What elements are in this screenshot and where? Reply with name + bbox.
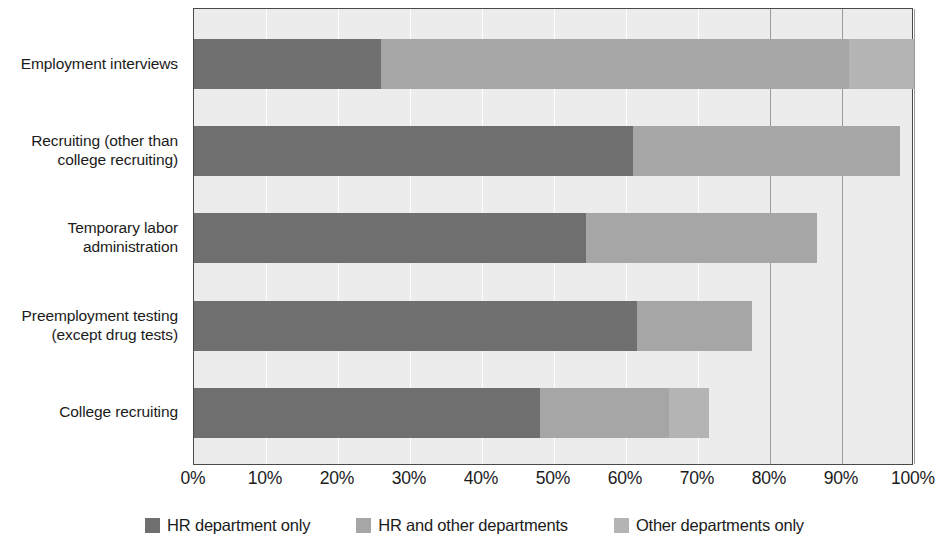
bar-segment	[849, 39, 914, 89]
legend-item[interactable]: HR and other departments	[356, 516, 568, 535]
legend-item[interactable]: HR department only	[145, 516, 310, 535]
category-label-line: College recruiting	[0, 402, 178, 421]
bar-segment	[669, 388, 709, 438]
bar-segment	[381, 39, 849, 89]
bar-row	[194, 388, 912, 438]
axis-tick-label: 100%	[891, 468, 935, 489]
bar-segment	[194, 301, 637, 351]
axis-tick-label: 0%	[181, 468, 206, 489]
category-label: Temporary laboradministration	[0, 218, 178, 256]
axis-tick-label: 50%	[536, 468, 570, 489]
bar-row	[194, 126, 912, 176]
legend-label: HR and other departments	[378, 516, 568, 535]
bar-segment	[194, 39, 381, 89]
plot-area	[193, 8, 913, 465]
category-label-line: administration	[0, 237, 178, 256]
bar-segment	[586, 213, 816, 263]
category-axis: Employment interviewsRecruiting (other t…	[0, 8, 186, 465]
gridline-100	[914, 9, 915, 464]
chart-legend: HR department onlyHR and other departmen…	[0, 508, 949, 542]
axis-tick-label: 20%	[320, 468, 354, 489]
bar-row	[194, 301, 912, 351]
category-label: College recruiting	[0, 402, 178, 421]
bar-segment	[637, 301, 752, 351]
category-label: Employment interviews	[0, 54, 178, 73]
legend-swatch-icon	[614, 518, 629, 533]
axis-tick-label: 70%	[680, 468, 714, 489]
category-label-line: college recruiting)	[0, 150, 178, 169]
legend-label: Other departments only	[636, 516, 804, 535]
category-label-line: (except drug tests)	[0, 325, 178, 344]
bar-row	[194, 39, 912, 89]
axis-tick-label: 30%	[392, 468, 426, 489]
value-axis: 0%10%20%30%40%50%60%70%80%90%100%	[193, 468, 913, 496]
stacked-bar-chart: Employment interviewsRecruiting (other t…	[0, 0, 949, 551]
category-label: Recruiting (other thancollege recruiting…	[0, 131, 178, 169]
axis-tick-label: 60%	[608, 468, 642, 489]
axis-tick-label: 80%	[752, 468, 786, 489]
category-label-line: Employment interviews	[0, 54, 178, 73]
legend-item[interactable]: Other departments only	[614, 516, 804, 535]
bar-segment	[194, 388, 540, 438]
bar-segment	[194, 213, 586, 263]
legend-swatch-icon	[356, 518, 371, 533]
axis-tick-label: 90%	[824, 468, 858, 489]
category-label-line: Temporary labor	[0, 218, 178, 237]
bar-segment	[540, 388, 670, 438]
bar-row	[194, 213, 912, 263]
bars-layer	[194, 9, 912, 464]
legend-label: HR department only	[167, 516, 310, 535]
legend-swatch-icon	[145, 518, 160, 533]
axis-tick-label: 10%	[248, 468, 282, 489]
category-label: Preemployment testing(except drug tests)	[0, 306, 178, 344]
axis-tick-label: 40%	[464, 468, 498, 489]
bar-segment	[194, 126, 633, 176]
bar-segment	[633, 126, 899, 176]
category-label-line: Recruiting (other than	[0, 131, 178, 150]
category-label-line: Preemployment testing	[0, 306, 178, 325]
